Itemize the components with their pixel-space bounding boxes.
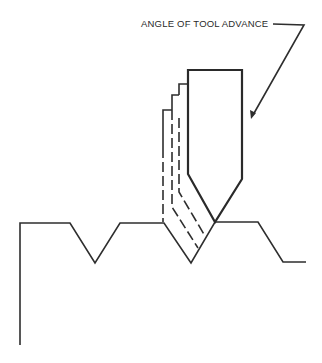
previous-tool-positions [163, 84, 205, 248]
cutting-tool [188, 70, 242, 222]
callout-arrow [250, 24, 304, 119]
tool-position-1-top [179, 84, 188, 95]
tool-position-2-flank [172, 110, 198, 248]
angle-of-tool-advance-label: ANGLE OF TOOL ADVANCE [141, 18, 268, 29]
thread-cutting-diagram: ANGLE OF TOOL ADVANCE [0, 0, 322, 363]
tool-position-3-top [163, 110, 172, 148]
tool-position-2-top [172, 95, 179, 110]
tool-position-1-flank [179, 118, 205, 236]
workpiece-profile [20, 222, 306, 345]
